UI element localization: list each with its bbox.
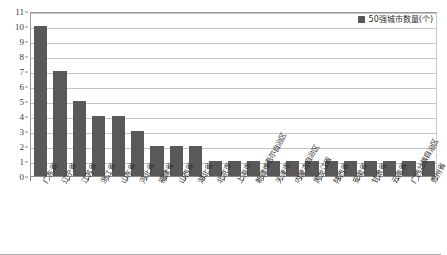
bar-slot — [147, 12, 166, 176]
bar-slot — [380, 12, 399, 176]
bar-slot — [322, 12, 341, 176]
y-tick-label: 4 — [20, 113, 25, 122]
bar-slot — [50, 12, 69, 176]
bar-slot — [128, 12, 147, 176]
bar-slot — [186, 12, 205, 176]
y-tick-mark — [25, 117, 28, 118]
y-tick-mark — [25, 12, 28, 13]
x-axis-labels: 广东省辽宁省江苏省浙江省山东省河北省福建省山西省湖北省北京市上海市新疆维吾尔自治… — [30, 181, 437, 255]
y-tick-label: 2 — [20, 143, 25, 152]
bar-slot — [225, 12, 244, 176]
bars-layer — [31, 13, 436, 177]
bar-slot — [244, 12, 263, 176]
bar-slot — [341, 12, 360, 176]
y-tick-label: 7 — [20, 68, 25, 77]
y-tick-mark — [25, 177, 28, 178]
y-tick-mark — [25, 72, 28, 73]
y-tick-mark — [25, 87, 28, 88]
y-tick-mark — [25, 162, 28, 163]
y-tick-mark — [25, 102, 28, 103]
y-tick-label: 10 — [15, 23, 24, 32]
bar-slot — [283, 12, 302, 176]
y-tick-label: 1 — [20, 158, 25, 167]
y-tick-label: 11 — [15, 8, 24, 17]
y-tick-label: 5 — [20, 98, 25, 107]
bar-slot — [167, 12, 186, 176]
bar[interactable] — [34, 26, 47, 176]
y-tick-label: 3 — [20, 128, 25, 137]
y-tick-label: 9 — [20, 38, 25, 47]
bar[interactable] — [53, 71, 66, 176]
y-tick-mark — [25, 132, 28, 133]
y-tick-label: 0 — [20, 173, 25, 182]
chart-legend: 50强城市数量(个) — [356, 14, 435, 25]
bar-slot — [70, 12, 89, 176]
y-tick-mark — [25, 57, 28, 58]
bar-slot — [109, 12, 128, 176]
bar-slot — [31, 12, 50, 176]
y-tick-label: 8 — [20, 53, 25, 62]
bar-slot — [205, 12, 224, 176]
plot-area — [30, 12, 437, 177]
bar-slot — [89, 12, 108, 176]
y-tick-mark — [25, 27, 28, 28]
y-tick-mark — [25, 147, 28, 148]
bar-slot — [399, 12, 418, 176]
bar-slot — [360, 12, 379, 176]
y-tick-label: 6 — [20, 83, 25, 92]
legend-swatch-icon — [358, 16, 365, 23]
legend-label: 50强城市数量(个) — [369, 15, 433, 24]
y-axis: 01234567891011 — [0, 12, 28, 177]
y-tick-mark — [25, 42, 28, 43]
